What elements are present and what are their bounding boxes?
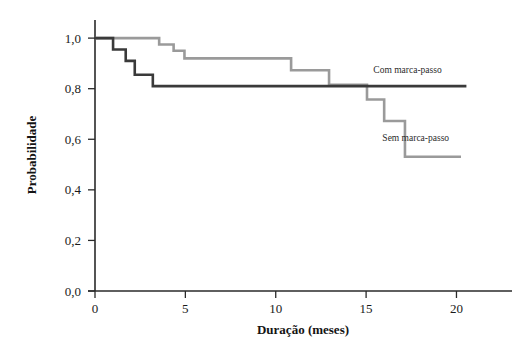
x-axis-title: Duração (meses): [257, 322, 349, 337]
series-label-2: Sem marca-passo: [382, 133, 449, 143]
x-tick-label: 20: [450, 301, 463, 316]
chart-canvas: 0,00,20,40,60,81,0 05101520 Com marca-pa…: [0, 0, 532, 354]
series-label-1: Com marca-passo: [373, 65, 442, 75]
x-tick-label: 0: [92, 301, 99, 316]
survival-curve-figure: 0,00,20,40,60,81,0 05101520 Com marca-pa…: [0, 0, 532, 354]
x-tick-label: 10: [269, 301, 282, 316]
y-tick-label: 0,8: [65, 81, 81, 96]
x-tick-label: 5: [182, 301, 189, 316]
y-tick-label: 1,0: [65, 31, 81, 46]
y-tick-label: 0,4: [65, 182, 82, 197]
y-axis-title: Probabilidade: [24, 116, 39, 195]
y-tick-label: 0,0: [65, 284, 81, 299]
x-tick-label: 15: [360, 301, 373, 316]
y-tick-label: 0,6: [65, 132, 82, 147]
y-tick-label: 0,2: [65, 233, 81, 248]
